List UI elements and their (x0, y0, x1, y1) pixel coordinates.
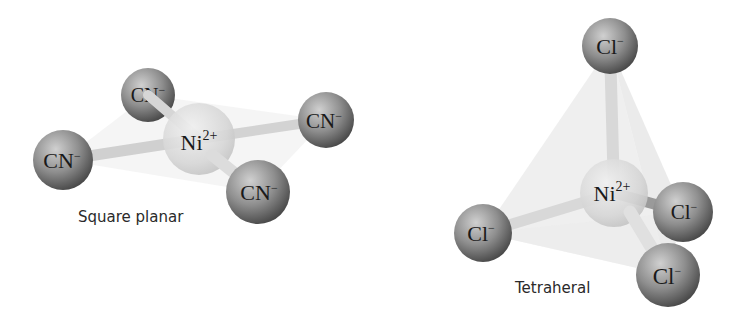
tetrahedral-complex: Cl− Cl− Ni2+ Cl− Cl− Tetraheral (454, 18, 713, 307)
square-planar-complex: CN− CN− CN− Ni2+ CN− Square planar (33, 68, 354, 226)
ligand-cl-bottom: Cl− (636, 243, 700, 307)
ligand-cl-top: Cl− (582, 18, 638, 74)
ligand-cl-left: Cl− (454, 204, 512, 262)
coordination-geometry-figure: CN− CN− CN− Ni2+ CN− Square planar (0, 0, 737, 327)
ligand-cn-right: CN− (298, 92, 354, 148)
tetrahedral-caption: Tetraheral (514, 279, 590, 297)
ligand-cl-right: Cl− (653, 182, 713, 242)
ligand-cn-bottom: CN− (226, 160, 290, 224)
ligand-cn-left: CN− (33, 130, 93, 190)
square-planar-caption: Square planar (78, 208, 184, 226)
